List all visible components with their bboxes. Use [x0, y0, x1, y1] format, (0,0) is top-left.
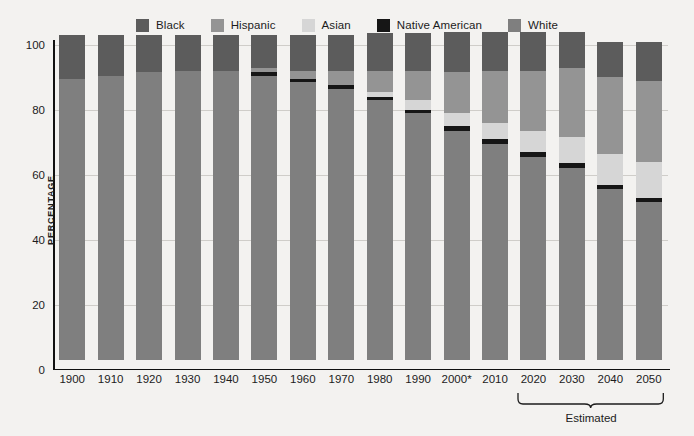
bar-column[interactable]	[213, 35, 239, 370]
bar-segment-hispanic[interactable]	[444, 72, 470, 113]
bar-segment-white[interactable]	[213, 71, 239, 360]
bar-segment-white[interactable]	[482, 144, 508, 360]
bar-column[interactable]	[175, 35, 201, 370]
bar-column[interactable]	[136, 35, 162, 370]
legend-label: Hispanic	[231, 19, 276, 31]
bar-column[interactable]	[59, 35, 85, 370]
bar-column[interactable]	[597, 35, 623, 370]
bar-segment-black[interactable]	[559, 32, 585, 68]
bar-segment-black[interactable]	[328, 35, 354, 71]
bar-segment-black[interactable]	[367, 33, 393, 70]
bar-segment-hispanic[interactable]	[251, 68, 277, 73]
bar-segment-white[interactable]	[559, 168, 585, 360]
bar-segment-hispanic[interactable]	[636, 81, 662, 162]
stacked-bar-chart: BlackHispanicAsianNative AmericanWhite 0…	[0, 0, 694, 436]
bar-segment-black[interactable]	[213, 35, 239, 71]
bar-segment-black[interactable]	[636, 42, 662, 81]
bar-segment-hispanic[interactable]	[520, 71, 546, 131]
bar-segment-native-american[interactable]	[520, 152, 546, 157]
bar-segment-native-american[interactable]	[482, 139, 508, 144]
y-tick-label: 100	[26, 39, 45, 51]
estimated-annotation: Estimated	[53, 392, 668, 432]
bar-segment-black[interactable]	[251, 35, 277, 68]
bar-segment-black[interactable]	[59, 35, 85, 79]
bar-segment-white[interactable]	[444, 131, 470, 360]
x-axis-ticks: 1900191019201930194019501960197019801990…	[53, 373, 668, 393]
bar-segment-white[interactable]	[328, 89, 354, 360]
bar-segment-native-american[interactable]	[290, 79, 316, 82]
bar-segment-black[interactable]	[175, 35, 201, 71]
bar-segment-hispanic[interactable]	[597, 77, 623, 153]
bar-segment-black[interactable]	[444, 32, 470, 73]
bar-segment-white[interactable]	[59, 79, 85, 360]
bar-segment-white[interactable]	[367, 100, 393, 360]
bar-segment-asian[interactable]	[520, 131, 546, 152]
bar-segment-native-american[interactable]	[597, 185, 623, 190]
bar-column[interactable]	[559, 35, 585, 370]
bar-column[interactable]	[444, 35, 470, 370]
bar-segment-black[interactable]	[482, 32, 508, 71]
bar-segment-native-american[interactable]	[251, 72, 277, 75]
bar-column[interactable]	[482, 35, 508, 370]
bar-segment-hispanic[interactable]	[328, 71, 354, 86]
bar-segment-white[interactable]	[98, 76, 124, 360]
bar-segment-white[interactable]	[520, 157, 546, 360]
y-axis-ticks: 020406080100	[9, 45, 45, 370]
bar-segment-black[interactable]	[520, 32, 546, 71]
y-tick-label: 60	[32, 169, 45, 181]
estimated-label: Estimated	[511, 412, 671, 424]
legend-label: Native American	[397, 19, 482, 31]
bar-column[interactable]	[98, 35, 124, 370]
bar-column[interactable]	[520, 35, 546, 370]
legend-item-hispanic[interactable]: Hispanic	[211, 19, 276, 32]
legend-item-native-american[interactable]: Native American	[377, 19, 482, 32]
bar-column[interactable]	[251, 35, 277, 370]
bar-segment-asian[interactable]	[405, 100, 431, 110]
y-tick-label: 80	[32, 104, 45, 116]
y-tick-label: 0	[39, 364, 45, 376]
legend-item-white[interactable]: White	[508, 19, 558, 32]
bar-segment-white[interactable]	[636, 202, 662, 360]
legend-swatch-icon	[377, 19, 390, 32]
bar-segment-asian[interactable]	[636, 162, 662, 198]
y-tick-label: 40	[32, 234, 45, 246]
bar-segment-black[interactable]	[136, 35, 162, 72]
bar-segment-white[interactable]	[136, 72, 162, 360]
bar-column[interactable]	[405, 35, 431, 370]
bar-segment-asian[interactable]	[559, 137, 585, 163]
legend-item-black[interactable]: Black	[136, 19, 185, 32]
bar-segment-hispanic[interactable]	[559, 68, 585, 138]
bar-segment-native-american[interactable]	[328, 85, 354, 88]
bar-segment-black[interactable]	[405, 33, 431, 70]
bar-segment-black[interactable]	[98, 35, 124, 76]
bar-column[interactable]	[328, 35, 354, 370]
bar-column[interactable]	[367, 35, 393, 370]
bar-segment-native-american[interactable]	[636, 198, 662, 203]
bar-segment-native-american[interactable]	[444, 126, 470, 131]
bar-segment-black[interactable]	[597, 42, 623, 78]
plot-area: 020406080100 PERCENTAGE	[53, 45, 668, 370]
bar-segment-asian[interactable]	[367, 92, 393, 97]
bar-segment-native-american[interactable]	[405, 110, 431, 113]
legend-item-asian[interactable]: Asian	[302, 19, 351, 32]
bar-segment-white[interactable]	[597, 189, 623, 360]
bar-segment-native-american[interactable]	[559, 163, 585, 168]
bar-segment-hispanic[interactable]	[290, 71, 316, 79]
bar-column[interactable]	[636, 35, 662, 370]
bar-segment-hispanic[interactable]	[367, 71, 393, 92]
bar-segment-hispanic[interactable]	[405, 71, 431, 100]
bar-segment-white[interactable]	[251, 76, 277, 360]
bar-segment-black[interactable]	[290, 35, 316, 71]
bar-segment-hispanic[interactable]	[482, 71, 508, 123]
bar-segment-asian[interactable]	[597, 154, 623, 185]
bar-segment-white[interactable]	[405, 113, 431, 360]
legend-swatch-icon	[136, 19, 149, 32]
bar-segment-native-american[interactable]	[367, 97, 393, 100]
legend-swatch-icon	[211, 19, 224, 32]
bar-segment-asian[interactable]	[444, 113, 470, 126]
bar-column[interactable]	[290, 35, 316, 370]
bar-segment-asian[interactable]	[482, 123, 508, 139]
bar-segment-white[interactable]	[175, 71, 201, 360]
bar-segment-white[interactable]	[290, 82, 316, 360]
legend-label: White	[528, 19, 558, 31]
